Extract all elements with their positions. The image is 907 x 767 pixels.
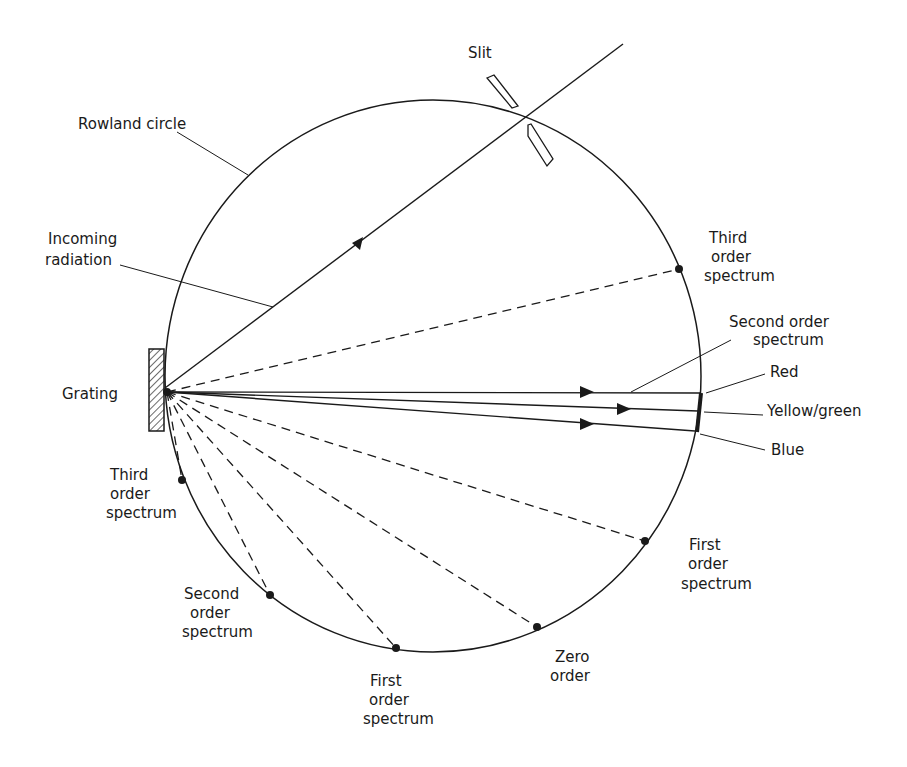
blue-label: Blue xyxy=(771,441,804,459)
grating-label: Grating xyxy=(62,385,118,403)
second-order-right-label-2: spectrum xyxy=(753,331,824,349)
arrow-icon xyxy=(580,418,594,430)
third-order-left-label-3: spectrum xyxy=(106,504,177,522)
spectrum-points xyxy=(178,265,683,652)
first-order-right-label-2: order xyxy=(688,555,729,573)
slit-label: Slit xyxy=(468,44,492,62)
third-order-right-label-3: spectrum xyxy=(704,267,775,285)
incoming-radiation-label-2: radiation xyxy=(45,251,112,269)
slit-jaw-lower xyxy=(528,124,553,166)
first-order-right-label-1: First xyxy=(689,536,721,554)
third-order-right-label-2: order xyxy=(711,248,752,266)
spectrum-band xyxy=(697,393,701,432)
grating xyxy=(149,349,164,431)
zero-order-label-1: Zero xyxy=(555,648,590,666)
arrow-icon xyxy=(617,403,631,415)
zero-order-label-2: order xyxy=(550,667,591,685)
second-order-left-label-1: Second xyxy=(184,585,239,603)
second-order-right-label-1: Second order xyxy=(729,313,830,331)
incoming-ray xyxy=(165,44,623,388)
second-order-left-label-2: order xyxy=(190,604,231,622)
slit-jaw-upper xyxy=(487,75,518,108)
third-order-left-label-2: order xyxy=(110,485,151,503)
first-order-bottom-label-3: spectrum xyxy=(363,710,434,728)
red-label: Red xyxy=(770,363,799,381)
first-order-bottom-label-2: order xyxy=(369,691,410,709)
first-order-bottom-label-1: First xyxy=(370,672,402,690)
third-order-right-label-1: Third xyxy=(708,229,747,247)
arrow-icon xyxy=(580,386,594,398)
rowland-circle-diagram: Slit Rowland circle Incoming radiation G… xyxy=(0,0,907,767)
third-order-left-label-1: Third xyxy=(109,466,148,484)
yellow-green-label: Yellow/green xyxy=(766,402,862,420)
incoming-radiation-label-1: Incoming xyxy=(48,230,117,248)
arrow-icon xyxy=(352,237,363,250)
first-order-right-label-3: spectrum xyxy=(681,575,752,593)
rowland-circle-label: Rowland circle xyxy=(78,115,186,133)
diffraction-rays xyxy=(167,269,679,648)
second-order-left-label-3: spectrum xyxy=(182,623,253,641)
rowland-circle xyxy=(165,100,701,652)
